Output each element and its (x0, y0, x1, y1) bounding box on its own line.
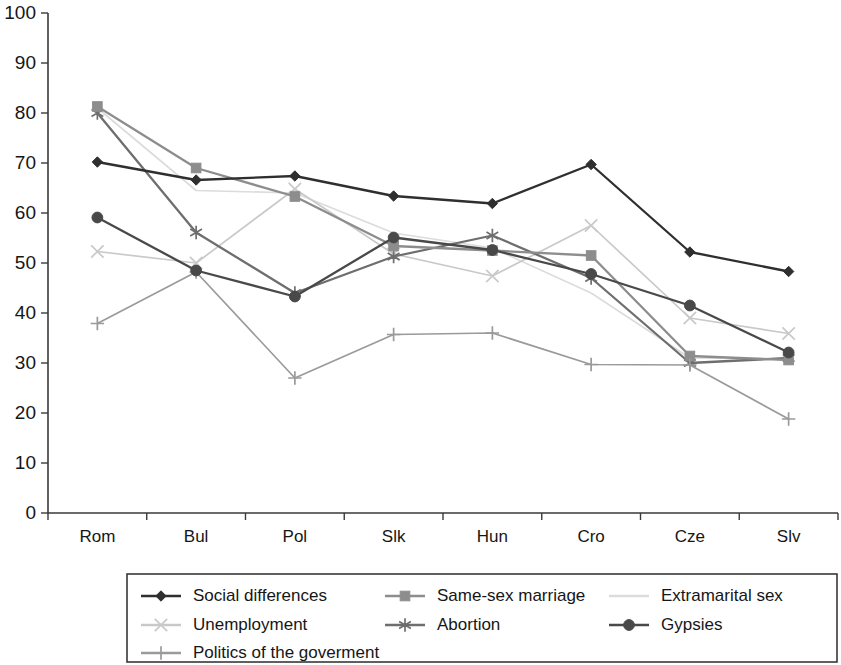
data-point-marker-circle (624, 620, 635, 631)
y-axis-tick-label: 30 (15, 352, 36, 373)
data-point-marker-plus (486, 326, 499, 339)
chart-series-group (91, 102, 796, 426)
data-point-marker-diamond (783, 266, 793, 276)
legend-item-label: Extramarital sex (661, 586, 783, 605)
data-point-marker-x (585, 219, 597, 231)
data-point-marker-square (290, 192, 300, 202)
data-point-marker-square (93, 102, 103, 112)
y-axis-tick-label: 20 (15, 402, 36, 423)
data-point-marker-circle (487, 245, 498, 256)
y-axis-tick-label: 90 (15, 52, 36, 73)
chart-legend: Social differencesSame-sex marriageExtra… (127, 574, 837, 662)
y-axis-tick-label: 80 (15, 102, 36, 123)
data-point-marker-plus (584, 358, 597, 371)
chart-series (97, 108, 788, 359)
data-point-marker-plus (782, 412, 795, 425)
data-point-marker-circle (783, 347, 794, 358)
data-point-marker-x (486, 270, 498, 282)
data-point-marker-diamond (388, 191, 398, 201)
x-axis-tick-label: Bul (184, 527, 209, 546)
data-point-marker-diamond (290, 171, 300, 181)
y-axis-tick-label: 40 (15, 302, 36, 323)
data-point-marker-plus (387, 328, 400, 341)
series-polyline (97, 113, 788, 363)
data-point-marker-diamond (487, 198, 497, 208)
legend-item-label: Same-sex marriage (437, 586, 585, 605)
chart-series (92, 157, 794, 277)
chart-series (91, 265, 796, 425)
data-point-marker-square (400, 591, 410, 601)
x-axis-tick-label: Slv (777, 527, 801, 546)
x-axis-tick-label: Rom (79, 527, 115, 546)
legend-item-label: Unemployment (193, 615, 308, 634)
legend-item-label: Gypsies (661, 615, 722, 634)
x-axis-tick-labels: RomBulPolSlkHunCroCzeSlv (79, 527, 801, 546)
y-axis-tick-label: 100 (4, 2, 36, 23)
data-point-marker-circle (289, 291, 300, 302)
legend-item-label: Social differences (193, 586, 327, 605)
data-point-marker-diamond (92, 157, 102, 167)
x-axis-tick-label: Pol (283, 527, 308, 546)
x-axis-tick-label: Hun (477, 527, 508, 546)
y-axis-tick-label: 10 (15, 452, 36, 473)
data-point-marker-circle (92, 212, 103, 223)
y-axis-tick-label: 70 (15, 152, 36, 173)
data-point-marker-circle (586, 269, 597, 280)
series-polyline (97, 218, 788, 353)
y-axis-tick-label: 60 (15, 202, 36, 223)
series-polyline (97, 162, 788, 272)
chart-series (91, 106, 794, 370)
data-point-marker-square (586, 251, 596, 261)
data-point-marker-circle (388, 232, 399, 243)
data-point-marker-circle (191, 265, 202, 276)
y-axis-tick-label: 0 (25, 502, 36, 523)
chart-series (91, 183, 795, 340)
chart-canvas: 0102030405060708090100 RomBulPolSlkHunCr… (0, 0, 841, 665)
y-axis-tick-label: 50 (15, 252, 36, 273)
legend-item-label: Abortion (437, 615, 500, 634)
x-axis-tick-label: Cro (577, 527, 604, 546)
data-point-marker-plus (91, 317, 104, 330)
series-polyline (97, 272, 788, 419)
legend-item-label: Politics of the goverment (193, 643, 379, 662)
y-axis-tick-labels: 0102030405060708090100 (4, 2, 36, 523)
chart-axes (41, 13, 838, 520)
line-chart: 0102030405060708090100 RomBulPolSlkHunCr… (0, 0, 841, 665)
x-axis-tick-label: Cze (675, 527, 705, 546)
data-point-marker-circle (684, 300, 695, 311)
series-polyline (97, 189, 788, 334)
x-axis-tick-label: Slk (382, 527, 406, 546)
series-polyline (97, 108, 788, 359)
data-point-marker-square (191, 163, 201, 173)
data-point-marker-diamond (191, 175, 201, 185)
